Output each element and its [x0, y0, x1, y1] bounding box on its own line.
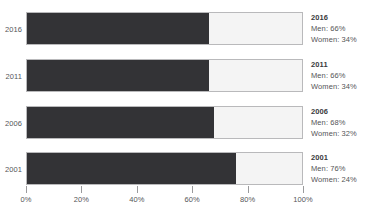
legend-men-2001: Men: 76% — [311, 163, 372, 174]
legend-year-2011: 2011 — [311, 59, 372, 70]
bar-row-2001 — [26, 152, 303, 185]
y-axis-label-2011: 2011 — [0, 72, 22, 81]
legend-women-2006: Women: 32% — [311, 128, 372, 139]
x-axis-tick-80 — [248, 186, 249, 193]
legend-year-2001: 2001 — [311, 152, 372, 163]
bar-segment-women-2001 — [236, 153, 302, 184]
bar-row-2006 — [26, 106, 303, 139]
bar-segment-men-2006 — [27, 107, 214, 138]
stacked-bar-chart: 2016 2011 2006 2001 0% 20% 40% 60% 80% 1… — [0, 0, 372, 214]
legend-block-2011: 2011 Men: 66% Women: 34% — [311, 59, 372, 92]
x-axis-ticklabel-0: 0% — [6, 195, 46, 204]
legend-block-2001: 2001 Men: 76% Women: 24% — [311, 152, 372, 185]
x-axis-tick-0 — [26, 186, 27, 193]
x-axis-ticklabel-80: 80% — [228, 195, 268, 204]
legend-men-2006: Men: 68% — [311, 117, 372, 128]
x-axis-ticklabel-40: 40% — [117, 195, 157, 204]
y-axis-label-2006: 2006 — [0, 119, 22, 128]
legend-block-2006: 2006 Men: 68% Women: 32% — [311, 106, 372, 139]
bar-segment-men-2001 — [27, 153, 236, 184]
bar-segment-women-2011 — [209, 60, 303, 91]
bar-segment-men-2011 — [27, 60, 209, 91]
bar-row-2016 — [26, 12, 303, 45]
x-axis: 0% 20% 40% 60% 80% 100% — [26, 186, 303, 214]
legend-women-2011: Women: 34% — [311, 81, 372, 92]
bar-segment-women-2016 — [209, 13, 303, 44]
bar-segment-women-2006 — [214, 107, 302, 138]
legend-block-2016: 2016 Men: 66% Women: 34% — [311, 12, 372, 45]
bar-segment-men-2016 — [27, 13, 209, 44]
legend-women-2016: Women: 34% — [311, 34, 372, 45]
x-axis-tick-60 — [192, 186, 193, 193]
x-axis-tick-20 — [81, 186, 82, 193]
y-axis-label-2016: 2016 — [0, 25, 22, 34]
legend-year-2006: 2006 — [311, 106, 372, 117]
y-axis-label-2001: 2001 — [0, 165, 22, 174]
legend-year-2016: 2016 — [311, 12, 372, 23]
legend-women-2001: Women: 24% — [311, 174, 372, 185]
legend-men-2016: Men: 66% — [311, 23, 372, 34]
x-axis-tick-40 — [137, 186, 138, 193]
x-axis-ticklabel-100: 100% — [283, 195, 323, 204]
bar-row-2011 — [26, 59, 303, 92]
x-axis-tick-100 — [303, 186, 304, 193]
x-axis-ticklabel-60: 60% — [172, 195, 212, 204]
x-axis-ticklabel-20: 20% — [61, 195, 101, 204]
legend-men-2011: Men: 66% — [311, 70, 372, 81]
